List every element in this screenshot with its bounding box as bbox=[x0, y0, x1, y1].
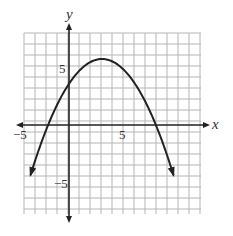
axes bbox=[16, 23, 210, 223]
x-tick-label-neg5: −5 bbox=[13, 127, 27, 142]
grid-lines bbox=[24, 33, 201, 214]
y-tick-label-5: 5 bbox=[59, 61, 66, 76]
x-tick-label-5: 5 bbox=[119, 127, 126, 142]
parabola-curve bbox=[31, 59, 174, 175]
coordinate-plane: x y −5 5 5 −5 bbox=[0, 0, 233, 236]
y-tick-label-neg5: −5 bbox=[54, 176, 68, 191]
y-axis-label: y bbox=[64, 6, 73, 22]
x-axis-label: x bbox=[211, 116, 219, 132]
